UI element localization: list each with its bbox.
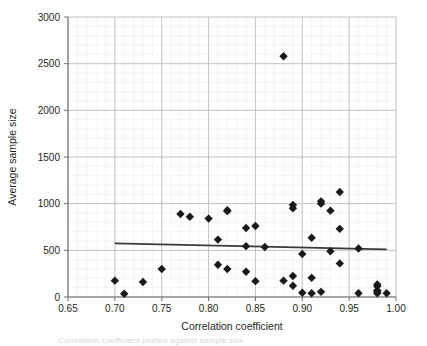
y-tick-label: 1500 bbox=[38, 152, 61, 163]
x-axis-title: Correlation coefficient bbox=[181, 320, 282, 332]
x-tick-label: 0.90 bbox=[293, 303, 313, 314]
chart-background bbox=[0, 0, 427, 346]
figure-caption-ghost: Correlation coefficient plotted against … bbox=[58, 336, 244, 345]
x-tick-label: 0.70 bbox=[105, 303, 125, 314]
y-axis-title: Average sample size bbox=[6, 108, 18, 205]
scatter-chart: 0.650.700.750.800.850.900.951.00 0500100… bbox=[0, 0, 427, 346]
y-tick-label: 0 bbox=[54, 292, 60, 303]
y-tick-label: 2000 bbox=[38, 105, 61, 116]
y-tick-label: 1000 bbox=[38, 198, 61, 209]
y-tick-label: 2500 bbox=[38, 58, 61, 69]
x-tick-label: 0.80 bbox=[199, 303, 219, 314]
y-tick-label: 3000 bbox=[38, 12, 61, 23]
x-tick-label: 0.95 bbox=[339, 303, 359, 314]
y-tick-label: 500 bbox=[43, 245, 60, 256]
x-tick-label: 0.75 bbox=[152, 303, 172, 314]
x-tick-label: 0.65 bbox=[58, 303, 78, 314]
x-tick-label: 0.85 bbox=[246, 303, 266, 314]
x-tick-label: 1.00 bbox=[386, 303, 406, 314]
